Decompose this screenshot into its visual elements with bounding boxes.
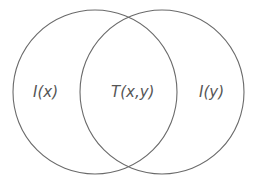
left-only-label: I(x) [33,83,58,101]
venn-diagram: I(x) T(x,y) I(y) [0,0,255,184]
right-only-label: I(y) [199,83,224,101]
intersection-label: T(x,y) [111,83,154,101]
